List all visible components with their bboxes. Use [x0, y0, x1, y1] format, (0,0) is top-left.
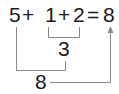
arrow-up-icon: [108, 26, 114, 33]
equals-sign: =: [87, 3, 99, 26]
result-8: 8: [103, 3, 115, 26]
operand-2: 2: [73, 3, 85, 26]
plus-sign-1: +: [22, 3, 34, 26]
diagram-canvas: 5 + 1 + 2 = 8 3 8: [0, 0, 119, 94]
bracket-1-plus-2: [49, 27, 80, 38]
equation-row: 5 + 1 + 2 = 8: [9, 3, 115, 26]
partial-sum-3: 3: [58, 37, 70, 60]
total-sum-8: 8: [35, 70, 47, 93]
operand-1: 1: [45, 3, 57, 26]
operand-5: 5: [9, 3, 21, 26]
plus-sign-2: +: [58, 3, 70, 26]
addition-decomposition-diagram: 5 + 1 + 2 = 8 3 8: [0, 0, 119, 94]
